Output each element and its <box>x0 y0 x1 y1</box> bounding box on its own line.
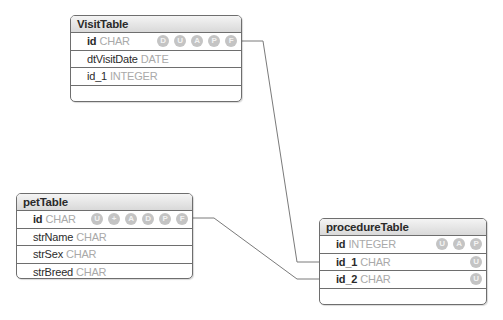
field-row[interactable]: idINTEGER U A P <box>320 236 486 254</box>
field-type: CHAR <box>66 248 96 260</box>
constraint-foreign-key-icon: F <box>176 213 188 225</box>
constraint-unique-icon: U <box>436 238 448 250</box>
field-row[interactable]: idCHAR D U A P F <box>71 33 241 51</box>
field-name: id <box>336 238 345 250</box>
empty-field-row[interactable] <box>320 289 486 306</box>
constraint-unique-icon: U <box>470 256 482 268</box>
field-constraint-icons: D U A P F <box>157 35 237 47</box>
field-type: CHAR <box>99 35 129 47</box>
procedure-table-title[interactable]: procedureTable <box>320 219 486 236</box>
field-row[interactable]: dtVisitDateDATE <box>71 51 241 69</box>
field-name: id_1 <box>336 256 357 268</box>
constraint-foreign-key-icon: F <box>225 35 237 47</box>
field-row[interactable]: strSexCHAR <box>17 246 192 264</box>
field-type: INTEGER <box>348 238 396 250</box>
field-type: CHAR <box>45 213 75 225</box>
field-name: strSex <box>33 248 63 260</box>
constraint-primary-key-icon: P <box>470 238 482 250</box>
field-constraint-icons: U + A D P F <box>91 213 188 225</box>
field-row[interactable]: id_1CHAR U <box>320 254 486 272</box>
constraint-auto-icon: A <box>191 35 203 47</box>
pet-table-title[interactable]: petTable <box>17 194 192 211</box>
field-name: id <box>87 35 96 47</box>
constraint-auto-icon: A <box>125 213 137 225</box>
field-type: CHAR <box>76 231 106 243</box>
field-row[interactable]: idCHAR U + A D P F <box>17 211 192 229</box>
field-constraint-icons: U A P <box>436 238 482 250</box>
constraint-unique-icon: U <box>470 273 482 285</box>
constraint-d-icon: D <box>157 35 169 47</box>
empty-field-row[interactable] <box>71 86 241 103</box>
field-type: CHAR <box>360 256 390 268</box>
field-name: id_2 <box>336 273 357 285</box>
constraint-unique-icon: U <box>91 213 103 225</box>
constraint-plus-icon: + <box>108 213 120 225</box>
field-name: strName <box>33 231 73 243</box>
field-name: dtVisitDate <box>87 53 138 65</box>
visit-table[interactable]: VisitTable idCHAR D U A P F dtVisitDateD… <box>70 15 242 102</box>
er-diagram-canvas: VisitTable idCHAR D U A P F dtVisitDateD… <box>0 0 503 320</box>
constraint-d-icon: D <box>142 213 154 225</box>
constraint-auto-icon: A <box>453 238 465 250</box>
procedure-table[interactable]: procedureTable idINTEGER U A P id_1CHAR … <box>319 218 487 305</box>
relationship-pet-procedure[interactable] <box>192 218 319 279</box>
relationship-visit-procedure[interactable] <box>241 41 319 262</box>
field-name: strBreed <box>33 266 73 278</box>
field-constraint-icons: U <box>470 256 482 268</box>
field-row[interactable]: id_1INTEGER <box>71 68 241 86</box>
field-type: CHAR <box>360 273 390 285</box>
constraint-unique-icon: U <box>174 35 186 47</box>
field-constraint-icons: U <box>470 273 482 285</box>
pet-table[interactable]: petTable idCHAR U + A D P F strNameCHAR … <box>16 193 193 279</box>
field-type: DATE <box>141 53 169 65</box>
field-type: INTEGER <box>110 70 158 82</box>
visit-table-title[interactable]: VisitTable <box>71 16 241 33</box>
field-row[interactable]: strNameCHAR <box>17 229 192 247</box>
field-row[interactable]: id_2CHAR U <box>320 271 486 289</box>
constraint-primary-key-icon: P <box>208 35 220 47</box>
field-row[interactable]: strBreedCHAR <box>17 264 192 280</box>
constraint-primary-key-icon: P <box>159 213 171 225</box>
field-name: id <box>33 213 42 225</box>
field-type: CHAR <box>76 266 106 278</box>
field-name: id_1 <box>87 70 107 82</box>
